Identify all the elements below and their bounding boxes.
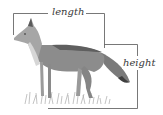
- coyote-illustration: [14, 18, 130, 98]
- height-label: height: [122, 57, 156, 69]
- coyote-measurement-diagram: length height: [0, 0, 163, 115]
- grass-illustration: [25, 91, 110, 104]
- length-label: length: [50, 7, 86, 17]
